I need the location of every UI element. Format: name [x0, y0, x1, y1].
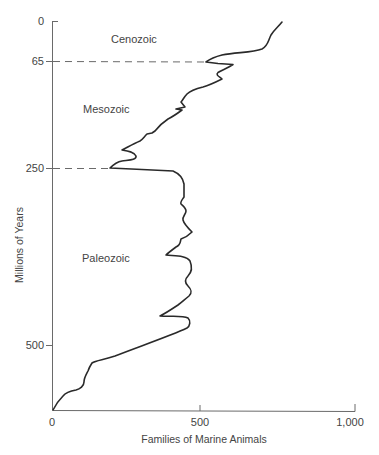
y-tick-label-0: 0	[38, 15, 44, 27]
x-tick-label-0: 0	[49, 416, 55, 428]
marine-families-chart: 0 65 250 500 0 500 1,000 Families of Mar…	[0, 0, 379, 455]
y-tick-label-65: 65	[32, 55, 44, 67]
era-label-mesozoic: Mesozoic	[83, 103, 130, 115]
x-tick-label-500: 500	[191, 416, 209, 428]
x-tick-label-1000: 1,000	[336, 416, 364, 428]
era-label-paleozoic: Paleozoic	[82, 252, 130, 264]
y-tick-label-500: 500	[26, 339, 44, 351]
y-axis	[46, 21, 58, 410]
dashed-line-65	[53, 62, 206, 63]
x-axis	[53, 404, 356, 412]
x-axis-title: Families of Marine Animals	[141, 433, 266, 445]
era-label-cenozoic: Cenozoic	[111, 33, 157, 45]
y-tick-label-250: 250	[26, 162, 44, 174]
y-axis-title: Millions of Years	[13, 207, 25, 283]
marine-families-curve	[53, 22, 282, 410]
